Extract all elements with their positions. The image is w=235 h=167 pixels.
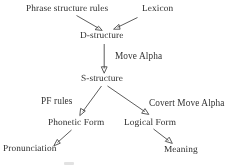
- edge-logical-form-to-meaning: [154, 129, 173, 143]
- node-phonetic-form: Phonetic Form: [48, 118, 104, 129]
- node-logical-form: Logical Form: [124, 118, 176, 129]
- edge-label-move-alpha: Move Alpha: [115, 51, 162, 62]
- node-phrase-structure-rules: Phrase structure rules: [26, 4, 108, 15]
- derivation-diagram: Phrase structure rules Lexicon D-structu…: [0, 0, 235, 167]
- edge-label-covert-move-alpha: Covert Move Alpha: [149, 98, 225, 109]
- edge-s-structure-to-logical-form: [108, 86, 149, 114]
- node-s-structure: S-structure: [81, 74, 123, 85]
- node-lexicon: Lexicon: [142, 4, 173, 15]
- edge-s-structure-to-phonetic-form: [80, 86, 102, 116]
- edge-psr-to-d-structure: [77, 16, 103, 31]
- edge-lexicon-to-d-structure: [114, 18, 138, 30]
- node-d-structure: D-structure: [80, 31, 123, 42]
- edge-d-structure-to-s-structure: [101, 44, 107, 73]
- edge-label-pf-rules: PF rules: [41, 96, 73, 107]
- scan-artifact: [64, 162, 74, 165]
- node-pronunciation: Pronunciation: [3, 144, 56, 155]
- node-meaning: Meaning: [164, 145, 198, 156]
